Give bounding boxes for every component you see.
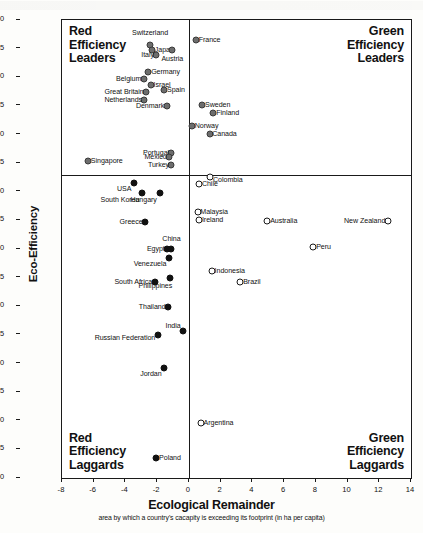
data-point[interactable] (180, 328, 187, 335)
data-point-label: Colombia (213, 176, 243, 184)
y-tick-mark (16, 47, 20, 48)
data-point-label: Norway (195, 122, 219, 130)
y-tick-mark (16, 19, 20, 20)
x-tick-label: -4 (121, 485, 128, 494)
data-point-label: Austria (161, 55, 183, 63)
y-tick-label: 1.00 (0, 472, 4, 481)
x-tick-label: 6 (281, 485, 285, 494)
data-point-label: Finland (216, 109, 239, 117)
y-tick-label: 0.70 (0, 300, 4, 309)
quad-tl-line1: Red (69, 25, 126, 39)
data-point-label: Turkey (148, 161, 169, 169)
y-tick-mark (16, 305, 20, 306)
data-point-label: Venezuela (134, 260, 167, 268)
data-point[interactable] (164, 246, 171, 253)
y-tick-label: 0.75 (0, 329, 4, 338)
quad-bl-line1: Red (69, 432, 126, 446)
y-tick-mark (16, 133, 20, 134)
quadrant-label-top-left: Red Efficiency Leaders (69, 25, 126, 66)
y-tick-label: 0.80 (0, 358, 4, 367)
data-point[interactable] (161, 365, 168, 372)
y-tick-label: 0.45 (0, 157, 4, 166)
data-point[interactable] (165, 303, 172, 310)
y-tick-mark (16, 477, 20, 478)
y-tick-mark (16, 104, 20, 105)
x-tick-label: -8 (58, 485, 65, 494)
data-point-label: Thailand (139, 303, 166, 311)
x-tick-label: 10 (342, 485, 350, 494)
data-point[interactable] (169, 46, 176, 53)
data-point-label: Jordan (140, 370, 161, 378)
data-point[interactable] (156, 190, 163, 197)
data-point-label: Ireland (202, 216, 223, 224)
quad-bl-line3: Laggards (69, 459, 126, 473)
eco-efficiency-scatter-chart: Eco-Efficiency ha footprint per 1000 USD… (0, 0, 423, 533)
data-point-label: Singapore (91, 157, 123, 165)
data-point-label: Russian Federation (95, 334, 156, 342)
quadrant-label-top-right: Green Efficiency Leaders (347, 25, 404, 66)
data-point-label: USA (117, 185, 131, 193)
y-tick-label: 0.95 (0, 443, 4, 452)
x-tick-label: 14 (406, 485, 414, 494)
x-tick-label: -2 (153, 485, 160, 494)
cropped-title-remnant (0, 1, 423, 10)
data-point-label: Spain (167, 86, 185, 94)
quad-tr-line2: Efficiency (347, 39, 404, 53)
plot-area: Red Efficiency Leaders Green Efficiency … (61, 19, 412, 479)
quadrant-label-bottom-left: Red Efficiency Laggards (69, 432, 126, 473)
y-tick-mark (16, 333, 20, 334)
vertical-divider-zero (189, 20, 190, 478)
data-point-label: Belgium (116, 75, 141, 83)
data-point-label: Denmark (136, 102, 164, 110)
y-tick-label: 0.60 (0, 243, 4, 252)
y-tick-mark (16, 419, 20, 420)
data-point-label: Argentina (204, 419, 234, 427)
data-point-label: Malaysia (200, 208, 228, 216)
y-tick-mark (16, 219, 20, 220)
quad-tl-line3: Leaders (69, 52, 126, 66)
y-tick-label: 0.20 (0, 14, 4, 23)
x-tick-label: 4 (249, 485, 253, 494)
data-point-label: Germany (151, 68, 180, 76)
data-point[interactable] (131, 179, 138, 186)
y-tick-label: 0.85 (0, 386, 4, 395)
quad-tl-line2: Efficiency (69, 39, 126, 53)
x-axis-subtitle: area by which a country's cacapity is ex… (0, 514, 423, 521)
y-tick-label: 0.90 (0, 415, 4, 424)
y-tick-label: 0.30 (0, 71, 4, 80)
y-tick-mark (16, 162, 20, 163)
data-point-label: Indonesia (215, 267, 245, 275)
y-tick-mark (16, 391, 20, 392)
x-tick-label: 12 (374, 485, 382, 494)
data-point[interactable] (166, 274, 173, 281)
data-point-label: Italy (141, 51, 154, 59)
data-point-label: Sweden (205, 101, 230, 109)
quad-tr-line3: Leaders (347, 52, 404, 66)
y-tick-label: 0.40 (0, 129, 4, 138)
data-point-label: Poland (159, 454, 181, 462)
data-point[interactable] (384, 217, 391, 224)
y-tick-label: 0.65 (0, 272, 4, 281)
y-tick-label: 0.25 (0, 43, 4, 52)
data-point-label: Philippines (138, 282, 172, 290)
x-axis-title: Ecological Remainder (0, 498, 423, 512)
y-tick-mark (16, 190, 20, 191)
y-tick-label: 0.55 (0, 214, 4, 223)
x-tick-label: -6 (89, 485, 96, 494)
y-tick-mark (16, 76, 20, 77)
y-tick-label: 0.35 (0, 100, 4, 109)
y-tick-mark (16, 362, 20, 363)
data-point-label: Brazil (243, 278, 260, 286)
quad-br-line2: Efficiency (347, 445, 404, 459)
data-point-label: China (162, 235, 180, 243)
x-tick-label: 0 (186, 485, 190, 494)
quad-bl-line2: Efficiency (69, 445, 126, 459)
x-tick-label: 8 (313, 485, 317, 494)
data-point-label: France (199, 36, 221, 44)
y-tick-mark (16, 448, 20, 449)
data-point-label: Switzerland (132, 29, 168, 37)
data-point[interactable] (142, 219, 149, 226)
data-point-label: Hungary (130, 196, 156, 204)
data-point-label: New Zealand (344, 217, 385, 225)
quadrant-label-bottom-right: Green Efficiency Laggards (347, 432, 404, 473)
